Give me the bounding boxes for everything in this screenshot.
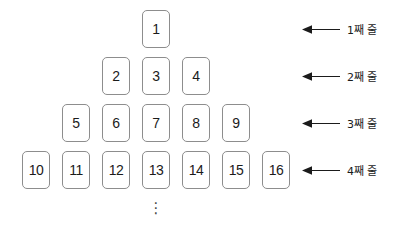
number-card: 16 [262, 151, 290, 189]
number-card: 3 [142, 57, 170, 95]
number-card: 9 [222, 104, 250, 142]
number-card: 10 [22, 151, 50, 189]
number-card: 13 [142, 151, 170, 189]
number-pyramid-figure: 12345678910111213141516⋮ 1째 줄2째 줄3째 줄4째 … [0, 0, 402, 234]
number-card: 6 [102, 104, 130, 142]
number-card: 4 [182, 57, 210, 95]
row-annotation: 1째 줄 [302, 19, 378, 39]
row-annotation-label: 2째 줄 [347, 68, 378, 84]
number-card: 14 [182, 151, 210, 189]
number-card: 7 [142, 104, 170, 142]
row-annotation-label: 1째 줄 [347, 21, 378, 37]
number-card: 2 [102, 57, 130, 95]
row-annotation: 2째 줄 [302, 66, 378, 86]
left-arrow-icon [302, 118, 340, 129]
number-card: 12 [102, 151, 130, 189]
left-arrow-icon [302, 165, 340, 176]
left-arrow-icon [302, 71, 340, 82]
left-arrow-icon [302, 24, 340, 35]
row-annotation: 3째 줄 [302, 113, 378, 133]
number-card: 8 [182, 104, 210, 142]
card-row-1: 1 [142, 10, 170, 48]
continuation-ellipsis: ⋮ [142, 200, 170, 215]
row-annotation-label: 4째 줄 [347, 162, 378, 178]
card-pyramid: 12345678910111213141516⋮ [0, 0, 300, 234]
number-card: 11 [62, 151, 90, 189]
number-card: 15 [222, 151, 250, 189]
number-card: 5 [62, 104, 90, 142]
card-row-4: 10111213141516 [22, 151, 290, 189]
card-row-3: 56789 [62, 104, 250, 142]
row-annotation: 4째 줄 [302, 160, 378, 180]
row-annotations: 1째 줄2째 줄3째 줄4째 줄 [300, 0, 402, 234]
card-row-2: 234 [102, 57, 210, 95]
row-annotation-label: 3째 줄 [347, 115, 378, 131]
number-card: 1 [142, 10, 170, 48]
